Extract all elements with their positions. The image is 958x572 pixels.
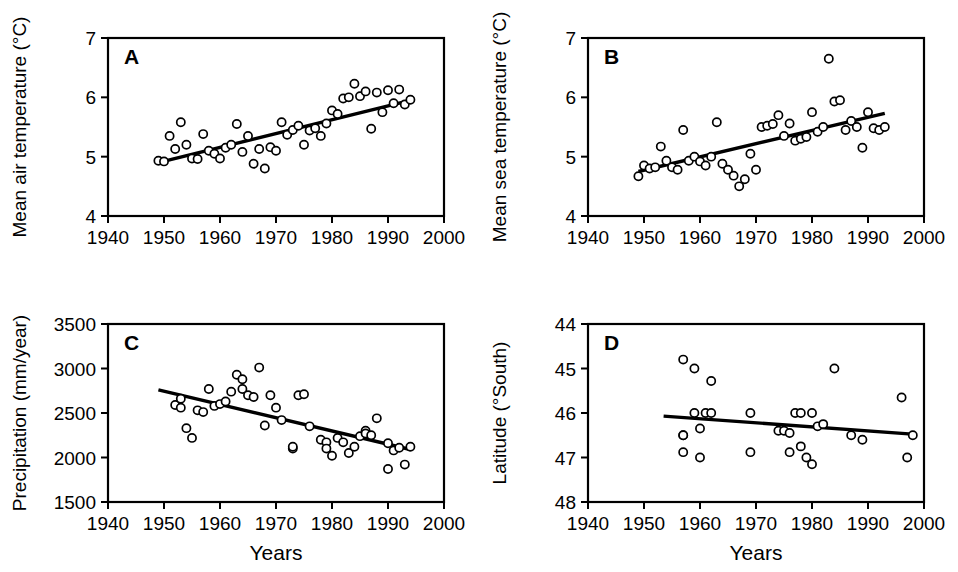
data-point [182,424,190,432]
data-point [735,182,743,190]
panel-d-plot: 44454647481940195019601970198019902000DL… [480,286,958,572]
data-point [266,391,274,399]
data-point [261,164,269,172]
x-tick-label: 2000 [423,513,465,534]
y-tick-label: 45 [555,359,576,380]
data-point [903,453,911,461]
data-point [350,443,358,451]
data-point [786,119,794,127]
data-point [830,364,838,372]
data-point [802,133,810,141]
data-point [166,132,174,140]
x-tick-label: 1940 [87,513,129,534]
y-axis-title: Mean air temperature (°C) [9,17,30,238]
data-point [278,118,286,126]
data-point [746,150,754,158]
data-point [679,448,687,456]
x-tick-label: 1960 [199,227,241,248]
data-point [836,96,844,104]
y-axis-ticks: 4445464748 [555,314,588,513]
data-point [188,434,196,442]
data-point [199,130,207,138]
data-point [194,155,202,163]
data-point [651,163,659,171]
panel-b-mean-sea-temperature: 45671940195019601970198019902000BMean se… [480,0,958,286]
y-axis-title: Latitude (°South) [489,342,510,485]
data-point [752,166,760,174]
data-point [808,108,816,116]
x-tick-label: 2000 [423,227,465,248]
data-point [707,153,715,161]
data-point [384,439,392,447]
data-point [367,431,375,439]
data-point [679,126,687,134]
data-point [881,123,889,131]
data-point [289,443,297,451]
data-point [858,144,866,152]
data-point [222,397,230,405]
x-tick-label: 2000 [903,227,945,248]
x-tick-label: 1990 [847,227,889,248]
x-axis-ticks: 1940195019601970198019902000 [567,216,945,248]
data-point [898,393,906,401]
data-point [780,132,788,140]
data-point [350,80,358,88]
panel-d-latitude: 44454647481940195019601970198019902000DL… [480,286,958,572]
data-point [261,421,269,429]
data-point [797,442,805,450]
data-point [808,409,816,417]
y-tick-label: 3500 [54,314,96,335]
x-tick-label: 1990 [847,513,889,534]
data-point [395,86,403,94]
x-tick-label: 1960 [679,513,721,534]
y-axis-ticks: 4567 [565,28,588,227]
data-point [317,132,325,140]
x-tick-label: 1960 [199,513,241,534]
x-tick-label: 1940 [567,227,609,248]
data-point [384,86,392,94]
x-tick-label: 1940 [567,513,609,534]
data-point [311,124,319,132]
data-point [707,409,715,417]
data-point [690,409,698,417]
x-tick-label: 1980 [311,513,353,534]
y-tick-label: 5 [85,147,96,168]
y-tick-label: 7 [565,28,576,49]
x-tick-label: 1950 [623,513,665,534]
data-point [847,431,855,439]
y-tick-label: 5 [565,147,576,168]
panel-letter: A [124,45,139,68]
x-tick-label: 2000 [903,513,945,534]
data-point [690,364,698,372]
x-axis-title: Years [730,541,783,564]
y-tick-label: 1500 [54,492,96,513]
x-tick-label: 1940 [87,227,129,248]
y-tick-label: 47 [555,448,576,469]
y-tick-label: 6 [85,87,96,108]
x-tick-label: 1970 [735,513,777,534]
data-point [160,157,168,165]
x-tick-label: 1950 [143,513,185,534]
panel-a-mean-air-temperature: 45671940195019601970198019902000AMean ai… [0,0,478,286]
data-point [227,141,235,149]
y-tick-label: 3000 [54,359,96,380]
panel-letter: C [124,331,139,354]
data-point [696,453,704,461]
data-point [853,123,861,131]
y-axis-ticks: 15002000250030003500 [54,314,108,513]
data-point [171,145,179,153]
panel-c-plot: 1500200025003000350019401950196019701980… [0,286,478,572]
y-tick-label: 4 [85,206,96,227]
y-tick-label: 4 [565,206,576,227]
x-tick-label: 1990 [367,227,409,248]
data-point [334,110,342,118]
y-axis-title: Mean sea temperature (°C) [489,12,510,242]
data-point [746,448,754,456]
data-point [679,356,687,364]
data-point [177,395,185,403]
panel-b-plot: 45671940195019601970198019902000BMean se… [480,0,958,286]
data-point [657,142,665,150]
y-tick-label: 48 [555,492,576,513]
data-point [842,126,850,134]
data-point [238,148,246,156]
